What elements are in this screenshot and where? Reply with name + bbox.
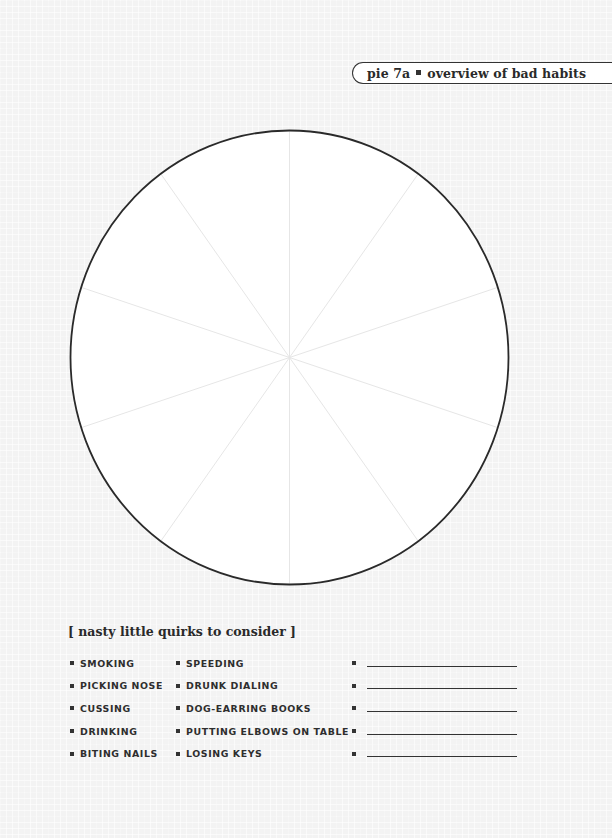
list-item: PICKING NOSE: [70, 675, 163, 698]
write-in-line[interactable]: [367, 688, 517, 689]
square-bullet-icon: [352, 684, 356, 688]
quirks-column-blanks: [352, 652, 517, 765]
square-bullet-icon: [352, 729, 356, 733]
quirk-label: CUSSING: [80, 703, 131, 714]
quirk-label: DRINKING: [80, 726, 137, 737]
list-item: SPEEDING: [176, 652, 349, 675]
list-item: SMOKING: [70, 652, 163, 675]
square-bullet-icon: [70, 661, 74, 665]
list-item: CUSSING: [70, 697, 163, 720]
square-bullet-icon: [176, 752, 180, 756]
list-item: LOSING KEYS: [176, 742, 349, 765]
square-bullet-icon: [70, 684, 74, 688]
list-item: DRUNK DIALING: [176, 675, 349, 698]
list-item: DOG-EARRING BOOKS: [176, 697, 349, 720]
square-bullet-icon: [70, 752, 74, 756]
quirk-label: DOG-EARRING BOOKS: [186, 703, 311, 714]
quirks-column-1: SMOKING PICKING NOSE CUSSING DRINKING BI…: [70, 652, 163, 765]
list-item: PUTTING ELBOWS ON TABLE: [176, 720, 349, 743]
pie-chart: [0, 0, 600, 600]
square-bullet-icon: [352, 661, 356, 665]
square-bullet-icon: [176, 684, 180, 688]
quirk-label: BITING NAILS: [80, 748, 158, 759]
square-bullet-icon: [352, 752, 356, 756]
write-in-line[interactable]: [367, 666, 517, 667]
list-item: DRINKING: [70, 720, 163, 743]
list-item: [352, 742, 517, 765]
square-bullet-icon: [70, 729, 74, 733]
square-bullet-icon: [176, 706, 180, 710]
quirk-label: LOSING KEYS: [186, 748, 262, 759]
quirk-label: PICKING NOSE: [80, 680, 163, 691]
list-item: [352, 675, 517, 698]
quirk-label: SMOKING: [80, 658, 135, 669]
square-bullet-icon: [352, 706, 356, 710]
quirks-column-2: SPEEDING DRUNK DIALING DOG-EARRING BOOKS…: [176, 652, 349, 765]
list-item: [352, 697, 517, 720]
square-bullet-icon: [70, 706, 74, 710]
write-in-line[interactable]: [367, 756, 517, 757]
list-item: [352, 720, 517, 743]
square-bullet-icon: [176, 729, 180, 733]
write-in-line[interactable]: [367, 734, 517, 735]
quirk-label: PUTTING ELBOWS ON TABLE: [186, 726, 349, 737]
quirk-label: DRUNK DIALING: [186, 680, 278, 691]
write-in-line[interactable]: [367, 711, 517, 712]
quirk-label: SPEEDING: [186, 658, 244, 669]
list-item: BITING NAILS: [70, 742, 163, 765]
list-item: [352, 652, 517, 675]
square-bullet-icon: [176, 661, 180, 665]
quirks-heading: [ nasty little quirks to consider ]: [68, 624, 296, 639]
